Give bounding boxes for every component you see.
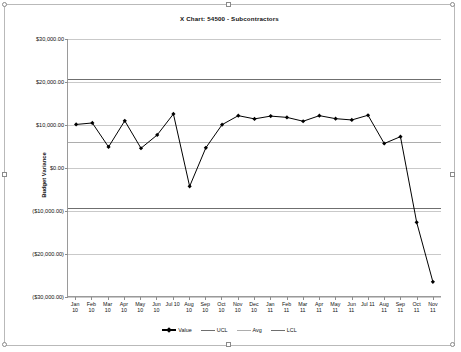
x-axis-tick-label: Jul 11: [361, 301, 375, 307]
x-axis-tick-label: Jun10: [152, 301, 161, 314]
y-axis-tick-label: ($20,000.00): [32, 251, 64, 257]
legend-label-ucl: UCL: [217, 327, 228, 333]
x-axis-tick-label: Jun11: [347, 301, 356, 314]
data-point-marker[interactable]: [188, 184, 192, 188]
legend-label-avg: Avg: [253, 327, 262, 333]
value-series: [68, 39, 441, 296]
x-axis-tick-label: Dec10: [249, 301, 258, 314]
y-axis-tick-label: $30,000.00: [36, 36, 64, 42]
resize-handle-bottom-left[interactable]: [2, 342, 7, 347]
x-axis-tick: [352, 297, 353, 300]
legend-item-lcl[interactable]: LCL: [271, 327, 297, 333]
x-axis-tick-label: Nov10: [233, 301, 242, 314]
x-axis-tick-label: Oct11: [412, 301, 420, 314]
value-line: [76, 114, 433, 282]
x-axis-tick-label: Sep10: [200, 301, 209, 314]
legend-marker-lcl-icon: [271, 328, 285, 332]
x-axis-tick: [75, 297, 76, 300]
y-axis-title: Budget Variance: [41, 152, 47, 197]
legend-marker-value-icon: [162, 328, 176, 332]
legend-item-value[interactable]: Value: [162, 327, 191, 333]
data-point-marker[interactable]: [333, 117, 337, 121]
x-axis-tick: [205, 297, 206, 300]
resize-handle-middle-left[interactable]: [2, 172, 7, 177]
x-axis-tick-label: Apr10: [120, 301, 128, 314]
x-axis-tick-label: Nov11: [428, 301, 437, 314]
x-axis-tick: [156, 297, 157, 300]
x-axis-tick-label: Mar10: [103, 301, 112, 314]
x-axis-labels: Jan10Feb10Mar10Apr10May10Jun10Jul 10Aug1…: [67, 297, 441, 327]
x-axis-tick-label: Aug10: [184, 301, 193, 314]
legend-label-value: Value: [178, 327, 191, 333]
chart-title: X Chart: 54500 - Subcontractors: [5, 15, 454, 22]
x-axis-tick: [91, 297, 92, 300]
x-axis-tick: [108, 297, 109, 300]
resize-handle-bottom-right[interactable]: [450, 342, 455, 347]
x-axis-tick: [433, 297, 434, 300]
x-axis-tick-label: May11: [330, 301, 340, 314]
legend-marker-ucl-icon: [201, 328, 215, 332]
y-axis-tick-label: ($30,000.00): [32, 294, 64, 300]
data-point-marker[interactable]: [398, 135, 402, 139]
x-axis-tick-label: Jan10: [71, 301, 80, 314]
data-point-marker[interactable]: [252, 117, 256, 121]
x-axis-tick-label: Feb10: [87, 301, 96, 314]
data-point-marker[interactable]: [415, 220, 419, 224]
data-point-marker[interactable]: [236, 114, 240, 118]
x-axis-tick-label: Aug11: [379, 301, 388, 314]
data-point-marker[interactable]: [431, 280, 435, 284]
x-axis-tick: [287, 297, 288, 300]
x-axis-tick-label: Oct10: [217, 301, 225, 314]
resize-handle-top-center[interactable]: [226, 2, 231, 7]
resize-handle-top-left[interactable]: [2, 2, 7, 7]
legend-item-ucl[interactable]: UCL: [201, 327, 228, 333]
legend-marker-avg-icon: [237, 328, 251, 332]
resize-handle-middle-right[interactable]: [450, 172, 455, 177]
data-point-marker[interactable]: [285, 115, 289, 119]
y-axis-tick-label: ($10,000.00): [32, 208, 64, 214]
x-axis-tick-label: Feb11: [282, 301, 291, 314]
x-axis-tick: [124, 297, 125, 300]
resize-handle-bottom-center[interactable]: [226, 342, 231, 347]
data-point-marker[interactable]: [269, 114, 273, 118]
x-axis-tick: [238, 297, 239, 300]
y-axis-tick-label: $10,000.00: [36, 122, 64, 128]
y-axis-tick-label: $0.00: [50, 165, 64, 171]
x-axis-tick: [303, 297, 304, 300]
data-point-marker[interactable]: [301, 119, 305, 123]
x-axis-tick: [140, 297, 141, 300]
data-point-marker[interactable]: [350, 118, 354, 122]
x-axis-tick-label: Jul 10: [166, 301, 180, 307]
x-axis-tick: [335, 297, 336, 300]
x-axis-tick: [221, 297, 222, 300]
x-axis-tick-label: Mar11: [298, 301, 307, 314]
x-axis-tick: [400, 297, 401, 300]
x-axis-tick-label: Jan11: [266, 301, 275, 314]
x-axis-tick: [417, 297, 418, 300]
x-axis-tick: [384, 297, 385, 300]
x-axis-tick: [270, 297, 271, 300]
x-axis-tick-label: Sep11: [396, 301, 405, 314]
chart-container[interactable]: X Chart: 54500 - Subcontractors Budget V…: [4, 4, 455, 346]
data-point-marker[interactable]: [366, 113, 370, 117]
x-axis-tick: [319, 297, 320, 300]
legend-item-avg[interactable]: Avg: [237, 327, 262, 333]
x-axis-tick: [368, 297, 369, 300]
y-axis-tick-label: $20,000.00: [36, 79, 64, 85]
plot-area: $30,000.00$20,000.00$10,000.00$0.00($10,…: [67, 39, 441, 297]
x-axis-tick: [189, 297, 190, 300]
x-axis-tick-label: Apr11: [315, 301, 323, 314]
data-point-marker[interactable]: [382, 141, 386, 145]
resize-handle-top-right[interactable]: [450, 2, 455, 7]
legend-label-lcl: LCL: [287, 327, 297, 333]
x-axis-tick-label: May10: [135, 301, 145, 314]
chart-legend: Value UCL Avg LCL: [5, 327, 454, 333]
x-axis-tick: [173, 297, 174, 300]
data-point-marker[interactable]: [74, 122, 78, 126]
x-axis-tick: [254, 297, 255, 300]
data-point-marker[interactable]: [317, 114, 321, 118]
